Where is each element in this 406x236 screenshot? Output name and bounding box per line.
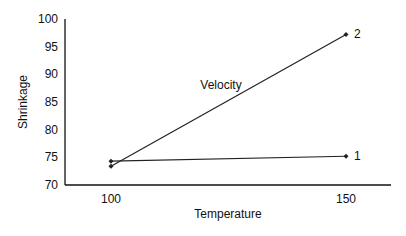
y-tick-label: 80 (45, 123, 59, 137)
y-tick-label: 90 (45, 67, 59, 81)
y-axis-label: Shrinkage (16, 75, 30, 129)
y-tick-label: 75 (45, 150, 59, 164)
series-1: 1 (109, 149, 362, 163)
y-tick-label: 70 (45, 178, 59, 192)
series-lines: 12 (109, 27, 362, 168)
diamond-marker-icon (109, 159, 114, 164)
series-end-label: 1 (354, 149, 361, 163)
diamond-marker-icon (344, 154, 349, 159)
annotation-velocity: Velocity (200, 78, 241, 92)
x-tick-label: 150 (336, 192, 356, 206)
axes (65, 19, 391, 185)
y-tick-label: 85 (45, 95, 59, 109)
y-tick-labels: 707580859095100 (38, 12, 58, 192)
diamond-marker-icon (344, 32, 349, 37)
x-tick-labels: 100150 (101, 192, 356, 206)
chart-svg: 707580859095100 100150 12 Shrinkage Temp… (0, 0, 406, 236)
x-tick-label: 100 (101, 192, 121, 206)
series-line (111, 34, 346, 166)
line-chart: 707580859095100 100150 12 Shrinkage Temp… (0, 0, 406, 236)
series-end-label: 2 (354, 27, 361, 41)
x-axis-label: Temperature (194, 207, 262, 221)
series-line (111, 156, 346, 161)
series-2: 2 (109, 27, 362, 168)
y-tick-label: 100 (38, 12, 58, 26)
y-tick-label: 95 (45, 40, 59, 54)
diamond-marker-icon (109, 164, 114, 169)
